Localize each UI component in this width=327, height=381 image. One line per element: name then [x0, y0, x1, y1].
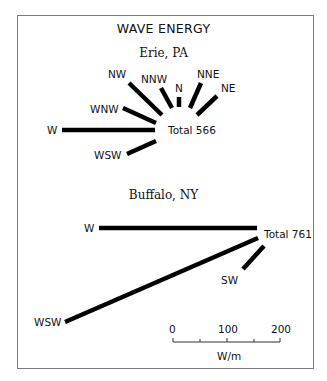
erie-total: Total 566: [167, 124, 216, 136]
erie-label-n: N: [175, 82, 183, 94]
erie-label-w: W: [47, 124, 58, 136]
erie-label-nnw: NNW: [141, 73, 168, 85]
erie-label-wsw: WSW: [94, 149, 122, 161]
erie-ray-wsw: [127, 141, 156, 154]
erie-ray-nw: [129, 83, 162, 115]
erie-label-nne: NNE: [197, 68, 219, 80]
erie-ray-nnw: [161, 88, 172, 108]
buffalo-label-sw: SW: [221, 274, 239, 286]
scale-tick-100: 100: [218, 323, 238, 335]
wave-energy-roses: NW NNW N NNE NE WNW W WSW Total 566 W WS…: [0, 0, 327, 381]
erie-label-wnw: WNW: [90, 103, 119, 115]
buffalo-total: Total 761: [263, 228, 312, 240]
buffalo-label-w: W: [84, 222, 95, 234]
buffalo-ray-sw: [243, 246, 264, 269]
scale-unit: W/m: [217, 350, 241, 362]
scale-tick-0: 0: [169, 323, 176, 335]
erie-ray-ne: [197, 96, 217, 115]
scale-bar: [173, 338, 280, 342]
erie-ray-nne: [190, 83, 201, 108]
erie-label-ne: NE: [221, 82, 236, 94]
erie-label-nw: NW: [108, 68, 127, 80]
erie-ray-wnw: [123, 108, 156, 123]
scale-tick-200: 200: [271, 323, 291, 335]
buffalo-label-wsw: WSW: [34, 316, 62, 328]
erie-rose: [62, 83, 217, 154]
